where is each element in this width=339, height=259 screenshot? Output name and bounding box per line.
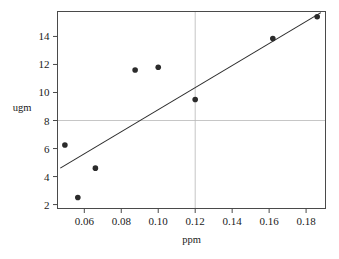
x-axis-label: ppm — [182, 234, 201, 245]
y-tick-label: 6 — [44, 143, 50, 155]
x-tick-label: 0.12 — [186, 215, 205, 227]
data-point-marker — [314, 14, 320, 20]
y-tick-label: 4 — [44, 171, 50, 183]
data-point-marker — [155, 64, 161, 70]
data-point-marker — [192, 97, 198, 103]
x-tick-label: 0.14 — [223, 215, 243, 227]
data-point-marker — [62, 142, 68, 148]
scatter-plot-svg: 0.060.080.100.120.140.160.18 2468101214 … — [0, 0, 339, 259]
y-tick-label: 12 — [39, 58, 50, 70]
y-axis-label: ugm — [13, 102, 32, 113]
data-point-marker — [75, 195, 81, 201]
x-tick-label: 0.16 — [260, 215, 280, 227]
x-tick-label: 0.08 — [112, 215, 132, 227]
chart-figure: 0.060.080.100.120.140.160.18 2468101214 … — [0, 0, 339, 259]
y-tick-label: 2 — [44, 199, 50, 211]
y-tick-label: 8 — [44, 115, 50, 127]
data-point-marker — [93, 165, 99, 171]
chart-background — [0, 0, 339, 259]
x-tick-label: 0.18 — [296, 215, 316, 227]
y-tick-label: 14 — [39, 30, 51, 42]
x-tick-label: 0.06 — [75, 215, 95, 227]
data-point-marker — [132, 67, 138, 73]
x-tick-label: 0.10 — [149, 215, 169, 227]
y-tick-label: 10 — [39, 86, 51, 98]
data-point-marker — [270, 36, 276, 42]
